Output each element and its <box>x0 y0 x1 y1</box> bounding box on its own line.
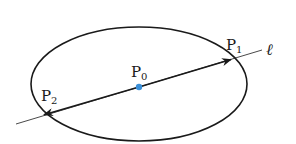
arrow-p0-to-p1 <box>139 60 231 88</box>
diagram-canvas: P0 P1 P2 ℓ <box>0 0 296 144</box>
label-p2: P2 <box>41 87 57 106</box>
label-line-l: ℓ <box>266 40 273 59</box>
label-p0: P0 <box>131 63 147 82</box>
arrow-p0-to-p2 <box>44 87 139 115</box>
center-point-p0 <box>136 84 142 90</box>
label-p1: P1 <box>226 36 242 55</box>
